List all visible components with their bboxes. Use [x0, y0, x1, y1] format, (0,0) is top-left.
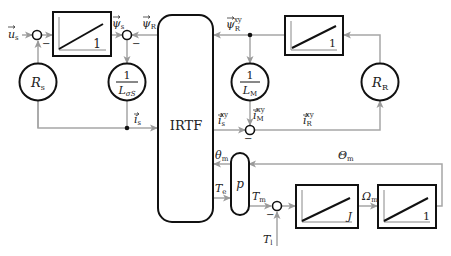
label-psi-s: ψs: [112, 17, 125, 31]
junction-dot: [125, 126, 130, 131]
sum-junction-flux: [123, 31, 132, 40]
inv-lm-block: 1 LM: [232, 64, 269, 101]
label-tm: Tm: [252, 190, 266, 204]
rs-block: Rs: [20, 64, 57, 101]
block-diagram: 1 1 J 1 IRTF p Rs RR 1: [0, 0, 451, 256]
integrator-inertia: J: [296, 185, 358, 228]
integrator-stator: 1: [53, 12, 111, 56]
label-us: us: [8, 28, 19, 42]
label-psi-r-xy: ψRxy: [226, 16, 242, 33]
label-te: Te: [215, 182, 227, 196]
label-tl: Tl: [263, 233, 273, 247]
gain-label: J: [346, 210, 353, 223]
label-is-xy: isxy: [218, 111, 228, 128]
gain-label: 1: [93, 37, 101, 51]
svg-text:1: 1: [247, 69, 254, 82]
minus-sign: −: [132, 38, 140, 49]
irtf-block: IRTF: [158, 15, 213, 222]
label-ir-xy: iRxy: [303, 111, 314, 128]
sum-junction-voltage: [33, 31, 42, 40]
p-label: p: [236, 177, 244, 191]
junction-dot: [248, 33, 253, 38]
label-im-xy: iMxy: [253, 106, 265, 123]
label-omega-m: Ωm: [361, 190, 378, 204]
minus-sign: −: [266, 209, 274, 220]
label-theta-m: θm: [215, 149, 229, 163]
pole-pairs-block: p: [231, 153, 249, 215]
label-psi-r: ψR: [142, 17, 157, 31]
minus-sign: −: [42, 38, 50, 49]
minus-sign: −: [244, 133, 252, 144]
rr-block: RR: [362, 64, 399, 101]
irtf-label: IRTF: [170, 118, 202, 133]
label-theta-m-big: Θm: [338, 149, 354, 163]
gain-label: 1: [423, 210, 430, 223]
inv-lsigma-block: 1 LσS: [109, 64, 146, 101]
gain-label: 1: [329, 37, 336, 50]
svg-text:1: 1: [124, 69, 131, 82]
integrator-rotor: 1: [285, 16, 343, 55]
integrator-angle: 1: [378, 185, 436, 228]
